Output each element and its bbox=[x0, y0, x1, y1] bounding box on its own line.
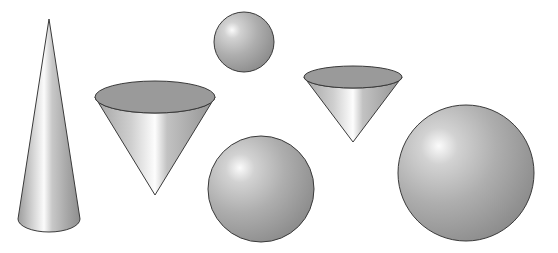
medium-sphere bbox=[208, 136, 314, 242]
small-sphere bbox=[214, 12, 274, 72]
solids-canvas bbox=[0, 0, 558, 253]
tall-cone bbox=[18, 19, 80, 232]
small-inverted-cone bbox=[304, 66, 402, 142]
large-sphere bbox=[398, 105, 534, 241]
geometric-solids-illustration: Geometric solids: cones and spheres bbox=[0, 0, 558, 253]
wide-inverted-cone bbox=[95, 81, 215, 195]
